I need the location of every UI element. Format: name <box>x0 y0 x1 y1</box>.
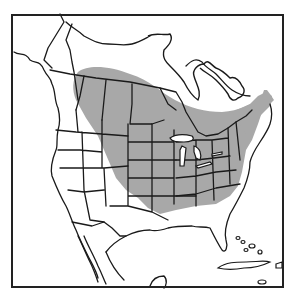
range-map <box>0 0 293 296</box>
island <box>236 237 240 240</box>
map-canvas <box>0 0 293 296</box>
jamaica <box>258 280 266 284</box>
island <box>244 249 248 252</box>
island <box>249 244 255 248</box>
lake-superior <box>170 135 193 142</box>
island <box>258 250 262 254</box>
island <box>241 241 245 244</box>
